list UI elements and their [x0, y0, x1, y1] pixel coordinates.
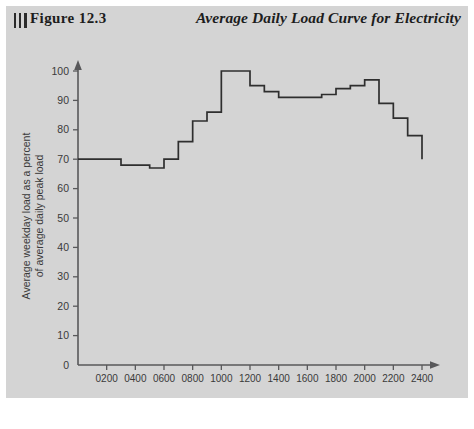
y-tick-label: 70 [57, 153, 69, 165]
load-curve-chart: 0102030405060708090100 02000400060008001… [0, 0, 462, 392]
y-tick-label: 80 [57, 123, 69, 135]
x-tick-label: 1800 [325, 373, 348, 384]
y-tick-label: 90 [57, 94, 69, 106]
y-tick-label: 20 [57, 300, 69, 312]
y-tick-label: 30 [57, 270, 69, 282]
y-tick-label: 60 [57, 182, 69, 194]
x-tick-label: 0400 [124, 373, 147, 384]
x-axis-arrowhead [430, 361, 440, 369]
x-tick-label: 0800 [182, 373, 205, 384]
figure-page: Figure 12.3 Average Daily Load Curve for… [0, 0, 474, 429]
x-tick-label: 2000 [354, 373, 377, 384]
y-axis-title-line1: Average weekday load as a percent [20, 133, 32, 300]
x-axis [78, 361, 440, 369]
x-axis-ticks: 0200040006000800100012001400160018002000… [96, 365, 434, 384]
x-tick-label: 1600 [296, 373, 319, 384]
x-axis-title: Time of day [227, 390, 285, 392]
y-tick-label: 10 [57, 329, 69, 341]
y-tick-label: 0 [63, 359, 69, 371]
x-tick-label: 1200 [239, 373, 262, 384]
y-tick-label: 100 [51, 65, 69, 77]
x-tick-label: 2400 [411, 373, 434, 384]
x-tick-label: 2200 [382, 373, 405, 384]
x-tick-label: 0200 [96, 373, 119, 384]
load-curve-line [78, 71, 422, 168]
y-tick-label: 50 [57, 212, 69, 224]
y-axis-title-line2: of average daily peak load [33, 155, 45, 278]
y-axis-arrowhead [74, 60, 82, 70]
chart-svg: 0102030405060708090100 02000400060008001… [0, 0, 462, 392]
x-tick-label: 1000 [210, 373, 233, 384]
y-tick-label: 40 [57, 241, 69, 253]
y-axis [74, 60, 82, 365]
x-tick-label: 1400 [268, 373, 291, 384]
x-tick-label: 0600 [153, 373, 176, 384]
y-axis-ticks: 0102030405060708090100 [51, 65, 78, 371]
